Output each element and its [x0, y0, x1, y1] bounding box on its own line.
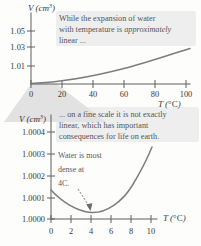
bottom-x-label-5: 8: [129, 227, 133, 236]
top-y-axis-title-close: ): [51, 3, 55, 13]
bottom-y-label-3: 1.0002: [22, 172, 45, 181]
bottom-x-axis-title-close: ): [182, 213, 186, 223]
figure-canvas: V (cm3) 1.05 1.03 1.01 0 20 40 60 80 100…: [0, 0, 201, 246]
bottom-y-label-4: 1.0001: [22, 194, 45, 203]
top-annotation-line-3: linear ...: [59, 36, 86, 45]
top-x-label-6: 100: [180, 90, 193, 99]
top-y-axis-title: V (cm3): [28, 3, 55, 13]
bottom-x-axis-title-unit: °C: [173, 213, 183, 223]
top-x-axis-title-close: ): [177, 99, 181, 109]
bottom-y-axis-title: V (cm3): [19, 114, 46, 124]
top-annotation-line-2: with temperature is approximately: [59, 25, 172, 34]
bottom-annotation-line-3: consequences for life on earth.: [59, 132, 159, 141]
bottom-y-label-1: 1.0004: [22, 128, 46, 137]
top-x-label-3: 40: [89, 90, 97, 99]
bottom-x-axis-title: T (°C): [163, 213, 186, 223]
top-x-label-4: 60: [120, 90, 128, 99]
bottom-x-label-1: 0: [49, 227, 53, 236]
bottom-x-label-6: 10: [147, 227, 155, 236]
bottom-x-label-4: 6: [109, 227, 113, 236]
top-y-label-2: 1.03: [10, 43, 25, 52]
top-y-axis-title-text: V (cm: [28, 3, 50, 13]
bottom-y-axis-title-text: V (cm: [19, 114, 41, 124]
top-y-label-1: 1.05: [10, 27, 25, 36]
bottom-y-label-5: 1.0000: [22, 215, 45, 224]
bottom-annotation-line-2: linear, which has important: [59, 121, 149, 130]
top-x-axis-title: T (°C): [158, 99, 181, 109]
callout-arrow-head: [86, 203, 92, 211]
bottom-annotation-line-1: ... on a fine scale it is not exactly: [59, 110, 167, 119]
top-x-axis-title-unit: °C: [168, 99, 178, 109]
bottom-y-axis-title-close: ): [42, 114, 46, 124]
bottom-x-label-3: 4: [89, 227, 94, 236]
bottom-x-label-2: 2: [69, 227, 73, 236]
top-annotation-line-1: While the expansion of water: [59, 14, 156, 23]
top-x-label-5: 80: [151, 90, 159, 99]
dense-callout-line-1: Water is most: [58, 151, 103, 160]
top-annotation-line-2-emphasis: approximately: [124, 25, 171, 34]
top-y-label-3: 1.01: [10, 62, 25, 71]
top-data-line: [31, 49, 190, 84]
top-x-label-1: 0: [29, 90, 33, 99]
dense-callout-line-2: dense at: [58, 165, 85, 174]
callout-arrow-shaft: [78, 189, 89, 206]
top-x-label-2: 20: [58, 90, 66, 99]
dense-callout-line-3: 4C.: [58, 179, 69, 188]
bottom-y-label-2: 1.0003: [22, 150, 45, 159]
water-volume-temperature-figure: V (cm3) 1.05 1.03 1.01 0 20 40 60 80 100…: [0, 0, 201, 246]
top-annotation-line-2-plain: with temperature is: [59, 25, 124, 34]
